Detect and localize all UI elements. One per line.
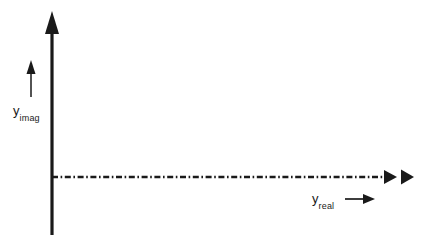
- axes-diagram-svg: [0, 0, 434, 242]
- real-axis-arrowhead-outer: [401, 170, 414, 185]
- imaginary-axis-label-base: y: [13, 103, 20, 118]
- real-axis-label-subscript: real: [319, 201, 335, 211]
- imaginary-axis: [45, 11, 59, 235]
- imaginary-axis-label-subscript: imag: [20, 113, 40, 123]
- real-direction-arrowhead: [363, 194, 375, 204]
- real-direction-arrow: [345, 194, 375, 204]
- real-axis: [52, 170, 414, 185]
- imaginary-axis-label: yimag: [13, 104, 40, 121]
- real-axis-label: yreal: [312, 192, 334, 209]
- real-axis-arrowhead-inner: [384, 170, 397, 184]
- imaginary-direction-arrow: [27, 60, 36, 97]
- real-axis-label-base: y: [312, 191, 319, 206]
- imaginary-direction-arrowhead: [27, 60, 36, 74]
- imaginary-axis-arrowhead: [45, 11, 59, 34]
- figure-canvas: yimag yreal: [0, 0, 434, 242]
